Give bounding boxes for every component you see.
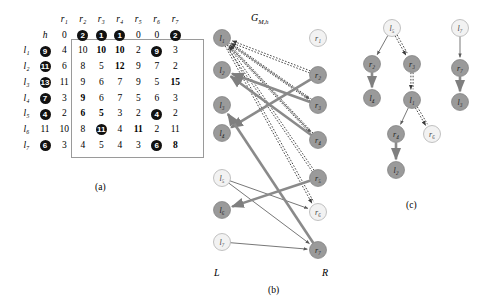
circled-value: 4 [151,109,162,120]
row-label: l₅ [18,106,35,122]
graph-node-r5[interactable]: r₅ [310,170,327,187]
circled-value: 1 [114,30,125,41]
row-h-value: 11 [35,59,55,75]
node-label: r₃ [409,60,415,69]
h-row-label: h [35,28,55,44]
tree-node-t_l1[interactable]: l₁ [404,92,421,109]
row-label: l₆ [18,122,35,138]
tree-edge [417,107,427,124]
tree-node-t_r3[interactable]: r₃ [404,56,421,73]
graph-node-l2[interactable]: l₂ [214,62,231,79]
matrix-cell: 11 [92,122,111,138]
matrix-cell: 5 [92,59,111,75]
matrix-cell: 10 [92,43,111,59]
value: 3 [117,108,122,118]
value: 5 [154,77,159,87]
value: 3 [62,140,67,150]
circled-value: 4 [40,109,51,120]
graph-edge [228,114,313,243]
value: 0 [62,30,67,40]
matrix-cell: 7 [111,91,130,107]
matrix-cell: 2 [129,43,148,59]
matrix-cell: 4 [111,138,130,154]
graph-node-r4[interactable]: r₄ [310,132,327,149]
matrix-header-row: r₁r₂r₃r₄r₅r₆r₇ [18,12,185,28]
matrix-cell: 4 [111,122,130,138]
graph-node-r7[interactable]: r₇ [310,242,327,259]
h-value-cell: 1 [92,28,111,44]
matrix-row: l₅42653242 [18,106,185,122]
node-label: r₂ [369,60,375,69]
node-label: l₁ [219,34,224,43]
value: 2 [62,108,67,118]
matrix-cell: 8 [166,138,185,154]
matrix-h-row: h0211002 [18,28,185,44]
column-header: r₇ [166,12,185,28]
matrix-cell: 11 [55,75,74,91]
value: 9 [136,61,141,71]
graph-node-l1[interactable]: l₁ [214,30,231,47]
node-label: l₄ [219,129,224,138]
bold-value: 5 [99,108,104,118]
tree-node-t_l3[interactable]: l₃ [452,94,469,111]
value: 0 [154,30,159,40]
circled-value: 6 [151,140,162,151]
graph-edge [229,183,310,243]
circled-value: 9 [40,46,51,57]
graph-node-l6[interactable]: l₆ [214,202,231,219]
matrix-cell: 8 [74,59,93,75]
graph-node-r1[interactable]: r₁ [310,30,327,47]
node-label: l₄ [369,94,374,103]
graph-edge [232,41,310,71]
matrix-cell: 9 [148,43,167,59]
bold-value: 6 [80,108,85,118]
matrix-cell: 9 [129,59,148,75]
tree-edge [397,35,408,54]
value: 2 [136,45,141,55]
tree-node-t_l2[interactable]: l₂ [388,162,405,179]
matrix-cell: 10 [111,43,130,59]
value: 3 [136,140,141,150]
node-label: r₂ [315,71,321,80]
matrix-cell: 11 [166,122,185,138]
graph-node-l4[interactable]: l₄ [214,125,231,142]
matrix-cell: 9 [74,91,93,107]
value: 10 [60,124,70,134]
tree-node-t_l4[interactable]: l₄ [364,90,381,107]
value: 7 [154,61,159,71]
value: 6 [62,61,67,71]
tree-node-t_r4[interactable]: r₄ [388,126,405,143]
panel-b-bipartite-graph: GM,h l₁l₂l₃l₄l₅l₆l₇r₁r₂r₃r₄r₅r₆r₇ L R [196,0,356,305]
graph-node-l7[interactable]: l₇ [214,234,231,251]
node-label: l₆ [219,206,224,215]
tree-node-t_l7[interactable]: l₇ [452,20,469,37]
graph-node-l3[interactable]: l₃ [214,97,231,114]
graph-node-r3[interactable]: r₃ [310,97,327,114]
graph-node-r6[interactable]: r₆ [310,204,327,221]
tree-node-t_l5[interactable]: l₅ [384,20,401,37]
caption-b: (b) [268,285,279,295]
value: 11 [60,77,69,87]
value: 8 [80,124,85,134]
h-value-cell: 1 [111,28,130,44]
circled-value: 2 [77,30,88,41]
tree-node-t_r6[interactable]: r₆ [424,126,441,143]
value: 7 [117,93,122,103]
graph-node-r2[interactable]: r₂ [310,67,327,84]
tree-node-t_r2[interactable]: r₂ [364,56,381,73]
bold-value: 10 [115,45,125,55]
row-h-value: 7 [35,91,55,107]
row-h-value: 9 [35,43,55,59]
matrix-cell: 3 [166,43,185,59]
matrix-row: l₃13119679515 [18,75,185,91]
node-label: r₃ [315,101,321,110]
value: 2 [173,108,178,118]
spacer [18,28,35,44]
value: 4 [117,124,122,134]
node-label: l₇ [457,24,462,33]
graph-node-l5[interactable]: l₅ [214,170,231,187]
bold-value: 12 [115,61,125,71]
matrix-cell: 11 [129,122,148,138]
tree-node-t_r7[interactable]: r₇ [452,60,469,77]
bold-value: 9 [80,93,85,103]
